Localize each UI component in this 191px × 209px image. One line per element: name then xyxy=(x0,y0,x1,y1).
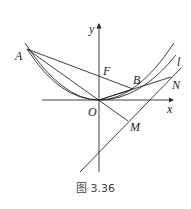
segment-AM xyxy=(27,49,128,121)
label-M: M xyxy=(129,120,141,134)
label-l: l xyxy=(177,55,181,69)
geometry-figure: y x A F B O N M l 图 3.36 xyxy=(0,0,191,209)
parabola-outer xyxy=(25,43,174,100)
label-y-axis: y xyxy=(88,22,95,36)
label-x-axis: x xyxy=(166,102,173,116)
figure-caption: 图 3.36 xyxy=(0,179,191,195)
segment-AB xyxy=(27,49,133,89)
label-N: N xyxy=(171,78,181,92)
label-B: B xyxy=(133,73,141,87)
label-F: F xyxy=(102,64,111,78)
diagram-canvas: y x A F B O N M l xyxy=(0,0,191,209)
label-A: A xyxy=(14,49,23,63)
label-O: O xyxy=(88,105,97,119)
